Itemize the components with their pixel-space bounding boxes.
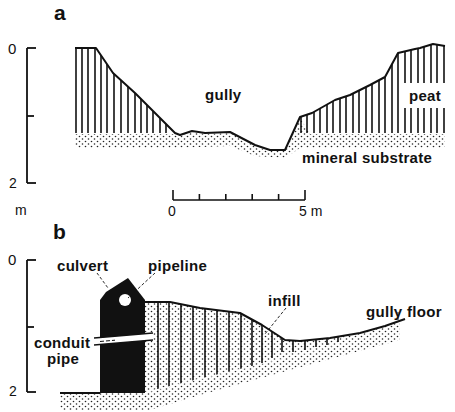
label-mineral-substrate: mineral substrate [302,150,432,165]
label-gully: gully [205,87,242,102]
pipeline [119,294,131,306]
label-pipe: pipe [47,351,79,366]
scale-bar-start: 0 [168,204,176,218]
label-gully-floor: gully floor [366,304,442,319]
panel-b-label: b [53,221,66,242]
panel-a-scale-top: 0 [8,41,16,56]
scale-bar-end: 5 m [299,204,322,218]
label-conduit: conduit [34,335,90,350]
label-infill: infill [268,293,301,308]
panel-b-vertical-scale [27,260,36,392]
panel-a-label: a [54,2,66,23]
horizontal-scale-bar [173,190,305,200]
panel-a-vertical-scale [27,48,36,183]
label-pipeline: pipeline [148,258,207,273]
peat-left-hatching [76,40,166,134]
vertical-scale-unit: m [15,203,27,217]
panel-b-scale-bottom: 2 [9,384,17,398]
label-peat: peat [409,88,441,103]
panel-a-scale-bottom: 2 [9,176,17,190]
label-culvert: culvert [57,258,108,273]
panel-b-scale-top: 0 [8,252,16,267]
